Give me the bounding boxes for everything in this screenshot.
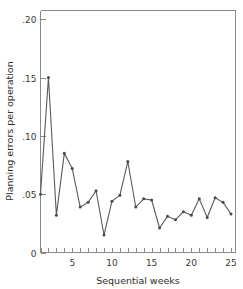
data-point — [47, 76, 50, 79]
chart-figure: 0.05.10.15.20 510152025 Sequential weeks… — [0, 0, 243, 289]
data-point — [134, 206, 137, 209]
y-axis-title: Planning errors per operation — [4, 61, 15, 200]
x-tick-label: 5 — [69, 258, 75, 268]
data-point — [230, 213, 233, 216]
x-axis-ticks — [42, 248, 232, 253]
data-point — [79, 206, 82, 209]
data-point — [95, 189, 98, 192]
data-series-line — [41, 78, 232, 235]
data-point — [206, 216, 209, 219]
data-point — [222, 201, 225, 204]
data-point — [198, 197, 201, 200]
y-tick-label: 0 — [31, 249, 37, 259]
data-point — [110, 200, 113, 203]
data-point — [39, 193, 42, 196]
data-point — [214, 196, 217, 199]
data-point — [190, 214, 193, 217]
x-tick-label: 10 — [106, 258, 118, 268]
data-point — [166, 215, 169, 218]
data-series-markers — [39, 76, 233, 236]
y-tick-label: .05 — [22, 190, 36, 200]
x-axis-title: Sequential weeks — [96, 275, 180, 286]
y-tick-label: .20 — [22, 15, 37, 25]
data-point — [174, 218, 177, 221]
y-tick-label: .15 — [22, 74, 36, 84]
data-point — [142, 197, 145, 200]
x-tick-label: 15 — [146, 258, 157, 268]
y-axis-tick-labels: 0.05.10.15.20 — [22, 15, 37, 259]
x-axis-tick-labels: 510152025 — [69, 258, 236, 268]
data-point — [55, 214, 58, 217]
y-tick-label: .10 — [22, 132, 37, 142]
data-point — [182, 210, 185, 213]
data-point — [103, 234, 106, 237]
data-point — [87, 201, 90, 204]
data-point — [71, 167, 74, 170]
line-chart: 0.05.10.15.20 510152025 Sequential weeks… — [0, 0, 243, 289]
data-point — [150, 199, 153, 202]
data-point — [126, 160, 129, 163]
x-tick-label: 20 — [186, 258, 198, 268]
data-point — [118, 194, 121, 197]
data-point — [63, 152, 66, 155]
x-tick-label: 25 — [225, 258, 236, 268]
data-point — [158, 227, 161, 230]
